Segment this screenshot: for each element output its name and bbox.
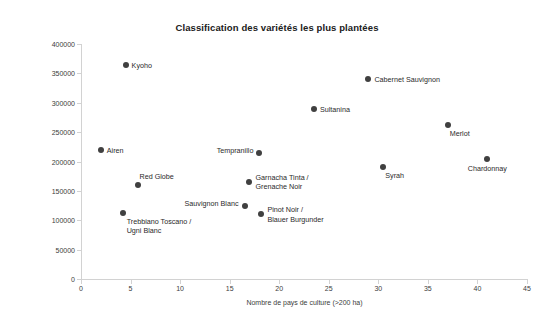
y-tick-label: 400000 [15,41,75,48]
x-tick-mark [180,280,181,284]
data-point[interactable] [256,150,262,156]
data-point[interactable] [242,203,248,209]
chart-figure: Classification des variétés les plus pla… [0,0,554,327]
data-point[interactable] [365,76,371,82]
x-tick-label: 15 [226,285,234,292]
data-point-label: Syrah [385,171,404,180]
plot-area: KyohoCabernet SauvignonSultaninaMerlotAi… [81,44,527,279]
y-tick-label: 50000 [15,246,75,253]
y-tick-label: 100000 [15,217,75,224]
data-point[interactable] [135,182,141,188]
data-point-label: Sultanina [320,105,350,114]
x-tick-label: 45 [523,285,531,292]
data-point-label: Merlot [450,129,470,138]
y-tick-label: 200000 [15,158,75,165]
data-point-label: Trebbiano Toscano / Ugni Blanc [127,217,192,235]
data-point[interactable] [123,62,129,68]
x-tick-mark [81,280,82,284]
x-tick-mark [230,280,231,284]
data-point-label: Tempranillo [217,146,254,155]
y-tick-label: 350000 [15,70,75,77]
x-tick-mark [131,280,132,284]
data-point-label: Cabernet Sauvignon [374,76,440,85]
x-tick-label: 20 [275,285,283,292]
data-point-label: Sauvignon Blanc [185,199,239,208]
data-point[interactable] [258,211,264,217]
data-point[interactable] [98,147,104,153]
data-point-label: Chardonnay [468,164,507,173]
data-point-label: Red Globe [139,172,173,181]
x-tick-mark [329,280,330,284]
x-tick-label: 40 [474,285,482,292]
data-point-label: Garnacha Tinta / Grenache Noir [255,173,308,191]
data-point-label: Airen [107,147,124,156]
chart-title: Classification des variétés les plus pla… [0,22,554,33]
x-tick-mark [378,280,379,284]
data-point[interactable] [311,106,317,112]
data-point[interactable] [445,122,451,128]
x-tick-label: 5 [129,285,133,292]
x-tick-label: 10 [176,285,184,292]
data-point[interactable] [120,210,126,216]
y-tick-label: 250000 [15,129,75,136]
y-tick-label: 150000 [15,187,75,194]
x-tick-mark [279,280,280,284]
y-tick-label: 0 [15,276,75,283]
data-point-label: Pinot Noir / Blauer Burgunder [267,205,323,223]
y-tick-label: 300000 [15,99,75,106]
x-axis-line [81,279,528,280]
data-point-label: Kyoho [132,61,152,70]
x-tick-mark [477,280,478,284]
x-tick-label: 25 [325,285,333,292]
x-tick-label: 30 [374,285,382,292]
x-tick-label: 0 [79,285,83,292]
data-point[interactable] [380,164,386,170]
x-tick-label: 35 [424,285,432,292]
x-tick-mark [527,280,528,284]
data-point[interactable] [246,179,252,185]
x-axis-label: Nombre de pays de culture (>200 ha) [81,299,528,306]
x-tick-mark [428,280,429,284]
data-point[interactable] [484,156,490,162]
